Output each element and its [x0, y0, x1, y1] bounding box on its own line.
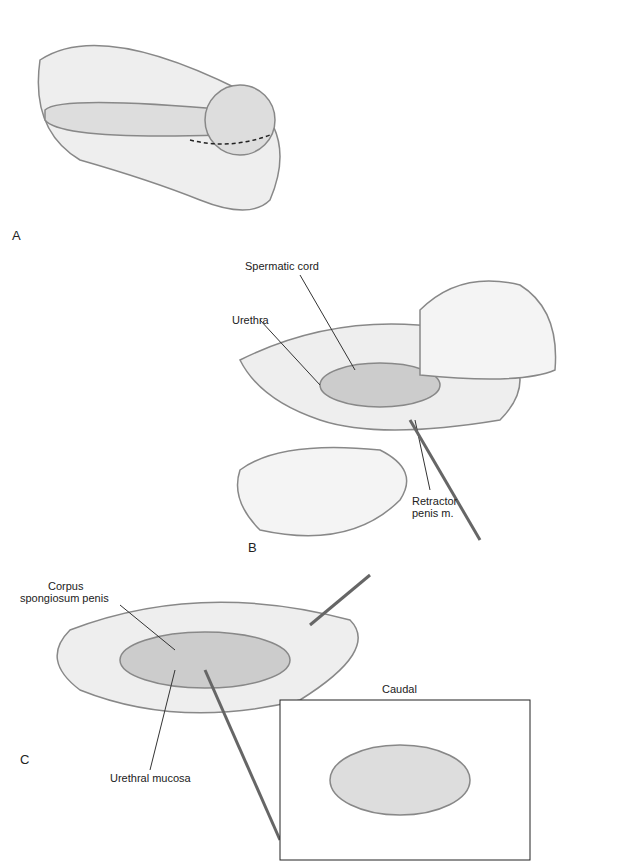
panel-a-drawing — [38, 45, 280, 210]
illustration-drawing — [0, 0, 634, 863]
label-urethra: Urethra — [232, 314, 269, 326]
label-urethral-mucosa: Urethral mucosa — [110, 772, 191, 784]
panel-b-drawing — [238, 275, 556, 540]
surgical-illustration: A B C Spermatic cord Urethra Retractor p… — [0, 0, 634, 863]
label-spermatic-cord: Spermatic cord — [245, 260, 319, 272]
panel-label-a: A — [12, 228, 21, 243]
label-caudal: Caudal — [382, 683, 417, 695]
label-retractor-1: Retractor — [412, 495, 457, 507]
panel-label-b: B — [248, 540, 257, 555]
panel-label-c: C — [20, 752, 29, 767]
label-corpus-1: Corpus — [48, 580, 83, 592]
panel-c-drawing — [57, 575, 530, 860]
label-retractor-2: penis m. — [412, 507, 454, 519]
label-corpus-2: spongiosum penis — [20, 592, 109, 604]
